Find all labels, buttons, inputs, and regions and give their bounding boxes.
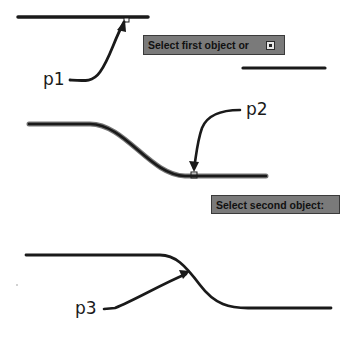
p2-arrowhead: [189, 161, 199, 172]
p1-leader: [70, 22, 124, 81]
label-p3: p3: [75, 300, 97, 317]
p3-leader: [104, 274, 186, 309]
blend-curve[interactable]: [29, 124, 266, 176]
p2-leader: [194, 110, 240, 168]
p1-arrowhead: [117, 20, 126, 32]
stray-dot: [16, 284, 18, 286]
result-curve: [26, 255, 331, 308]
first-object-prompt-text: Select first object or: [148, 39, 249, 51]
first-object-prompt: Select first object or: [143, 35, 285, 55]
second-object-prompt: Select second object:: [211, 195, 340, 214]
label-p2: p2: [246, 101, 268, 118]
label-p1: p1: [43, 71, 65, 88]
blend-curve-preview: [29, 124, 266, 176]
down-arrow-options-icon[interactable]: [266, 41, 275, 50]
second-object-prompt-text: Select second object:: [216, 199, 324, 211]
